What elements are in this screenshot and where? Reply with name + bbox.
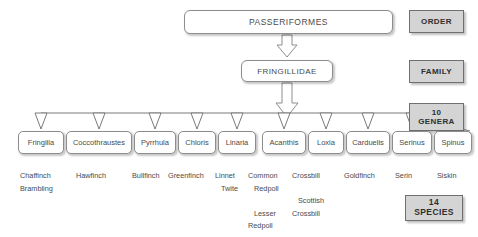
genus-node[interactable]: Acanthis [262, 131, 306, 154]
genus-node[interactable]: Linaria [218, 131, 256, 154]
taxonomy-diagram: PASSERIFORMES FRINGILLIDAE ORDER FAMILY … [0, 0, 478, 237]
genus-node[interactable]: Pyrrhula [134, 131, 176, 154]
species-column: Serin [395, 170, 412, 183]
species-label: Bullfinch [132, 170, 160, 183]
family-node[interactable]: FRINGILLIDAE [241, 60, 333, 82]
order-node[interactable]: PASSERIFORMES [184, 10, 393, 34]
species-column: Goldfinch [344, 170, 375, 183]
rank-badge-family: FAMILY [409, 60, 464, 83]
species-column: Bullfinch [132, 170, 160, 183]
species-column: Siskin [437, 170, 456, 183]
genera-drop-arrows [35, 113, 459, 129]
species-label: Scottish [292, 195, 324, 208]
species-column: CommonRedpoll LesserRedpoll [248, 170, 279, 233]
species-label: Hawfinch [76, 170, 106, 183]
species-label: Twite [215, 183, 238, 196]
species-label: Serin [395, 170, 412, 183]
genus-node[interactable]: Fringilla [18, 131, 64, 154]
species-label: Redpoll [248, 220, 279, 233]
genus-node[interactable]: Chloris [178, 131, 216, 154]
genus-node[interactable]: Coccothraustes [66, 131, 132, 154]
genera-count: 10 [432, 108, 442, 117]
species-column: Greenfinch [168, 170, 204, 183]
species-column: LinnetTwite [215, 170, 238, 195]
species-column: ChaffinchBrambling [20, 170, 53, 195]
species-label: Linnet [215, 170, 238, 183]
species-label: Chaffinch [20, 170, 53, 183]
genus-node[interactable]: Carduelis [346, 131, 390, 154]
species-label: Siskin [437, 170, 456, 183]
genus-node[interactable]: Loxia [308, 131, 344, 154]
species-label: Lesser [248, 208, 279, 221]
species-label: Redpoll [248, 183, 279, 196]
genera-label: GENERA [418, 117, 455, 126]
arrow-order-to-family [277, 35, 297, 57]
species-label: Greenfinch [168, 170, 204, 183]
species-label: Common [248, 170, 279, 183]
arrow-family-to-genera [276, 83, 298, 117]
species-label: SPECIES [414, 208, 454, 218]
rank-badge-genera: 10 GENERA [409, 103, 464, 131]
species-label: Brambling [20, 183, 53, 196]
rank-badge-order: ORDER [409, 10, 464, 33]
species-label: Goldfinch [344, 170, 375, 183]
genus-node[interactable]: Serinus [392, 131, 432, 154]
genus-node[interactable]: Spinus [434, 131, 472, 154]
species-label: Crossbill [292, 208, 324, 221]
species-label: Crossbill [292, 170, 324, 183]
species-column: Hawfinch [76, 170, 106, 183]
species-column: Crossbill ScottishCrossbill [292, 170, 324, 220]
rank-badge-species: 14 SPECIES [405, 195, 463, 221]
